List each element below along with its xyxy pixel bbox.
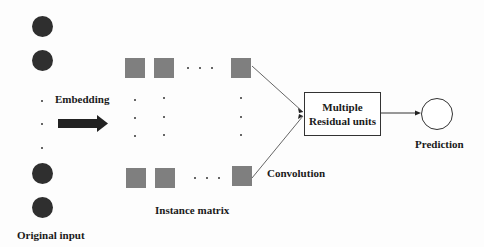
- embedding-label: Embedding: [55, 93, 109, 105]
- matrix-cell: [232, 166, 252, 186]
- ellipsis-dot: [163, 134, 165, 136]
- ellipsis-dot: [199, 67, 201, 69]
- ellipsis-dot: [206, 177, 208, 179]
- matrix-cell: [154, 58, 174, 78]
- residual-label-line2: Residual units: [309, 114, 376, 128]
- input-node: [32, 50, 53, 71]
- ellipsis-dot: [240, 97, 242, 99]
- ellipsis-dot: [163, 97, 165, 99]
- embedding-arrow-shaft: [58, 119, 98, 128]
- ellipsis-dot: [134, 135, 136, 137]
- convolution-line-top: [252, 66, 303, 112]
- matrix-cell: [231, 58, 251, 78]
- prediction-label: Prediction: [415, 138, 464, 150]
- input-node: [32, 163, 53, 184]
- ellipsis-dot: [194, 177, 196, 179]
- input-node: [32, 16, 53, 37]
- ellipsis-dot: [211, 67, 213, 69]
- ellipsis-dot: [240, 134, 242, 136]
- matrix-cell: [125, 58, 145, 78]
- convolution-label: Convolution: [267, 167, 325, 179]
- ellipsis-dot: [134, 99, 136, 101]
- ellipsis-dot: [41, 147, 43, 149]
- prediction-node: [421, 98, 453, 130]
- ellipsis-dot: [134, 117, 136, 119]
- matrix-cell: [126, 168, 146, 188]
- matrix-cell: [155, 168, 175, 188]
- ellipsis-dot: [41, 100, 43, 102]
- connector-layer: [0, 0, 484, 247]
- input-node: [32, 197, 53, 218]
- instance-matrix-label: Instance matrix: [155, 204, 229, 216]
- ellipsis-dot: [163, 116, 165, 118]
- ellipsis-dot: [41, 123, 43, 125]
- residual-units-box: Multiple Residual units: [304, 92, 381, 136]
- ellipsis-dot: [240, 116, 242, 118]
- original-input-label: Original input: [17, 229, 85, 241]
- ellipsis-dot: [218, 177, 220, 179]
- embedding-arrow-head: [97, 115, 108, 132]
- residual-label-line1: Multiple: [309, 100, 376, 114]
- ellipsis-dot: [187, 67, 189, 69]
- arrowhead-top: [298, 108, 303, 113]
